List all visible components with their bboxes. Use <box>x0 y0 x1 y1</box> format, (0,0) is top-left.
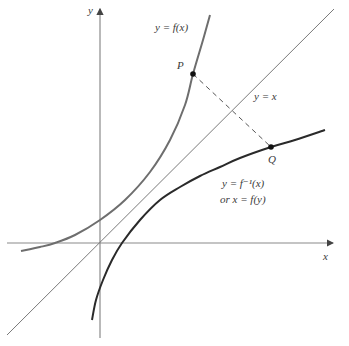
point-q-label: Q <box>268 153 276 165</box>
inverse-function-diagram: y x y = f(x) y = x P Q y = f⁻¹(x) or x =… <box>0 0 349 346</box>
x-axis-label: x <box>323 250 328 262</box>
point-p-label: P <box>177 59 184 71</box>
inverse-function-label: y = f⁻¹(x) <box>222 177 264 189</box>
identity-line-label: y = x <box>254 90 277 102</box>
function-label: y = f(x) <box>155 21 188 33</box>
function-curve <box>21 15 210 251</box>
identity-line <box>7 9 334 335</box>
point-q-dot <box>268 144 274 150</box>
plot-canvas <box>0 0 349 346</box>
y-axis-label: y <box>88 4 93 16</box>
inverse-function-curve <box>92 130 325 320</box>
inverse-alternate-label: or x = f(y) <box>220 193 266 205</box>
point-p-dot <box>190 71 196 77</box>
